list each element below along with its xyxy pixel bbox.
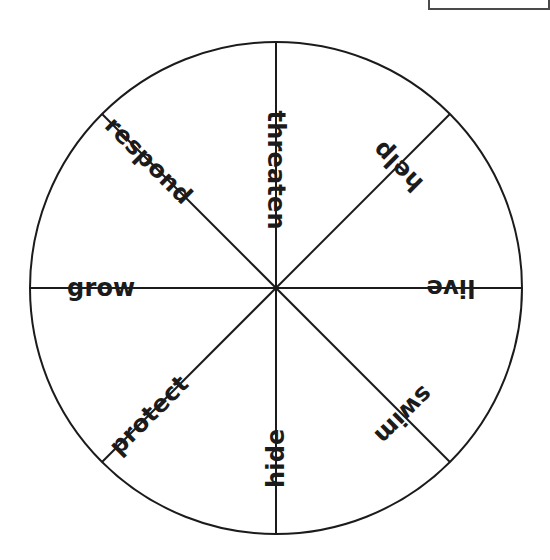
- wheel-segment-label: swim: [369, 380, 439, 450]
- wheel-segment-label: protect: [103, 370, 194, 461]
- wheel-segment-label: live: [426, 274, 475, 302]
- wheel-label-layer: threatenhelpliveswimhideprotectgrowrespo…: [0, 0, 550, 560]
- wheel-segment-label: hide: [262, 428, 290, 488]
- wheel-stage: threatenhelpliveswimhideprotectgrowrespo…: [0, 0, 550, 560]
- wheel-segment-label: help: [367, 136, 429, 198]
- wheel-segment-label: grow: [67, 274, 135, 302]
- wheel-segment-label: threaten: [262, 111, 290, 230]
- wheel-segment-label: respond: [99, 111, 198, 210]
